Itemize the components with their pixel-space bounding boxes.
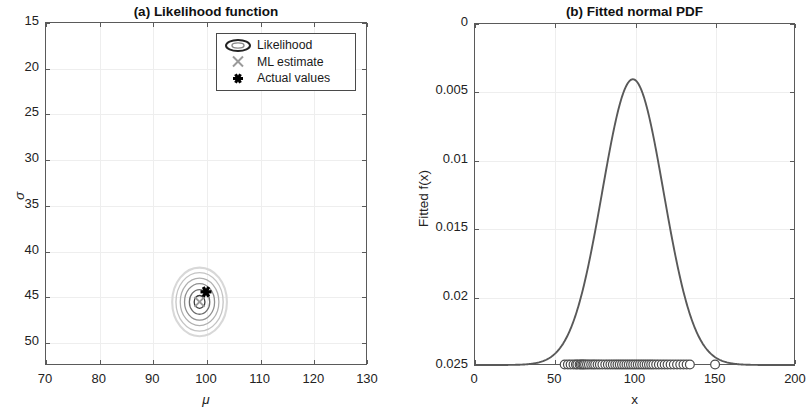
ytick-label: 35 bbox=[7, 196, 39, 211]
legend-item-2[interactable]: Actual values bbox=[221, 70, 349, 87]
panel-fitted-pdf: (b) Fitted normal PDF x Fitted f(x) 0501… bbox=[406, 0, 812, 416]
legend-ellipse-outer bbox=[226, 40, 250, 51]
legend-item-label: Actual values bbox=[255, 71, 330, 85]
ytick-label: 15 bbox=[7, 13, 39, 28]
data-point-circle bbox=[685, 360, 694, 369]
ytick-label: 0.005 bbox=[422, 82, 468, 97]
xtick-label: 70 bbox=[15, 371, 75, 386]
ytick-label: 0 bbox=[422, 14, 468, 29]
data-point-circle bbox=[711, 360, 720, 369]
xtick-label: 130 bbox=[337, 371, 397, 386]
contour-ellipse-icon bbox=[221, 38, 255, 53]
xtick-label: 80 bbox=[69, 371, 129, 386]
legend-item-label: ML estimate bbox=[255, 55, 324, 69]
xtick-label: 110 bbox=[230, 371, 290, 386]
ytick-label: 25 bbox=[7, 104, 39, 119]
xtick-label: 200 bbox=[765, 371, 812, 386]
asterisk-star-icon bbox=[221, 71, 255, 86]
legend-item-1[interactable]: ML estimate bbox=[221, 54, 349, 71]
xtick-label: 90 bbox=[122, 371, 182, 386]
ytick-label: 0.01 bbox=[422, 151, 468, 166]
data-point-markers bbox=[560, 360, 719, 369]
pdf-group bbox=[474, 79, 795, 369]
xtick-label: 100 bbox=[176, 371, 236, 386]
matlab-figure: (a) Likelihood function μ σ LikelihoodML… bbox=[0, 0, 812, 416]
xtick-label: 150 bbox=[685, 371, 745, 386]
ytick-label: 0.02 bbox=[422, 288, 468, 303]
xtick-label: 50 bbox=[524, 371, 584, 386]
panel-likelihood: (a) Likelihood function μ σ LikelihoodML… bbox=[0, 0, 406, 416]
legend-item-label: Likelihood bbox=[255, 38, 312, 52]
xtick-label: 0 bbox=[444, 371, 504, 386]
cross-x-icon bbox=[221, 54, 255, 69]
ytick-label: 30 bbox=[7, 150, 39, 165]
xtick-label: 120 bbox=[283, 371, 343, 386]
normal-pdf-curve bbox=[474, 79, 795, 365]
legend-item-0[interactable]: Likelihood bbox=[221, 37, 349, 54]
ytick-label: 40 bbox=[7, 242, 39, 257]
ytick-label: 0.015 bbox=[422, 219, 468, 234]
contour-group bbox=[172, 268, 227, 337]
xtick-label: 100 bbox=[605, 371, 665, 386]
ytick-label: 20 bbox=[7, 59, 39, 74]
ytick-label: 50 bbox=[7, 333, 39, 348]
ytick-label: 45 bbox=[7, 287, 39, 302]
ml-estimate-marker bbox=[195, 297, 205, 307]
ytick-label: 0.025 bbox=[422, 356, 468, 371]
fitted-pdf-curve bbox=[406, 0, 812, 416]
panel-a-legend[interactable]: LikelihoodML estimateActual values bbox=[216, 33, 356, 91]
legend-ellipse-inner bbox=[232, 43, 244, 48]
